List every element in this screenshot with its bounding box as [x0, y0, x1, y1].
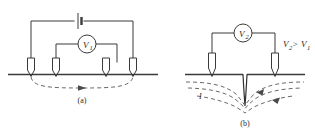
resistivity-diagram: (a) I (b) [0, 0, 315, 136]
circuit-wire-left [31, 21, 74, 62]
electrode-a-3 [103, 58, 110, 77]
voltage-comparison-annotation: V 2 > V 1 [283, 39, 310, 51]
caption-panel-b: (b) [240, 119, 250, 128]
current-arrow-b-lower [272, 98, 280, 105]
electrode-a-4 [130, 58, 137, 77]
voltmeter-v1-subscript: 1 [90, 44, 93, 51]
annotation-operator: > [292, 39, 298, 49]
battery-symbol [78, 13, 82, 29]
caption-panel-a: (a) [78, 96, 87, 105]
voltmeter-wire-right-b [252, 33, 275, 54]
crack-fissure [243, 75, 247, 106]
meter-labels: V 1 V 2 [83, 29, 250, 52]
electrode-a-2 [53, 58, 60, 77]
current-arrow-a [78, 85, 86, 91]
electrode-a-1 [28, 58, 35, 77]
panel-a: (a) [8, 13, 158, 105]
current-label-b: I [198, 92, 202, 101]
voltmeter-wire-left-b [212, 33, 234, 54]
electrode-b-1 [209, 53, 216, 77]
figure-container: (a) I (b) [0, 0, 315, 136]
electrode-b-2 [272, 53, 279, 77]
current-flow-path-a [31, 77, 133, 88]
annotation-v1-subscript: 1 [307, 44, 310, 51]
